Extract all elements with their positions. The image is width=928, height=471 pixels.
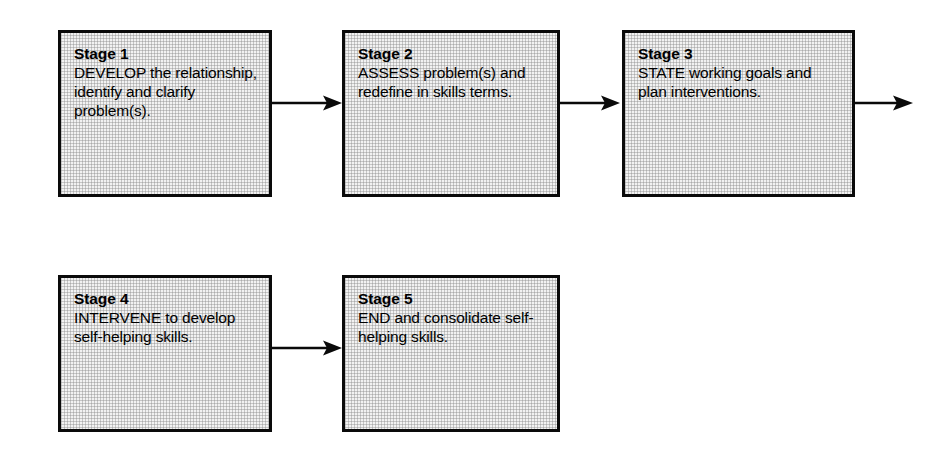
flowchart-node-stage-2[interactable]: Stage 2 ASSESS problem(s) and redefine i… xyxy=(342,30,560,197)
node-title-stage-5: Stage 5 xyxy=(358,289,557,308)
node-content-stage-4: Stage 4 INTERVENE to develop self-helpin… xyxy=(61,278,269,346)
node-title-stage-3: Stage 3 xyxy=(638,44,852,63)
flowchart-node-stage-3[interactable]: Stage 3 STATE working goals and plan int… xyxy=(622,30,855,197)
flowchart-arrow-stage-4-to-stage-5 xyxy=(272,339,344,357)
node-content-stage-2: Stage 2 ASSESS problem(s) and redefine i… xyxy=(345,33,557,101)
flowchart-arrow-stage-2-to-stage-3 xyxy=(560,94,622,112)
flowchart-node-stage-4[interactable]: Stage 4 INTERVENE to develop self-helpin… xyxy=(58,275,272,432)
node-body-stage-4: INTERVENE to develop self-helping skills… xyxy=(74,308,269,346)
node-body-stage-3: STATE working goals and plan interventio… xyxy=(638,63,852,101)
node-title-stage-1: Stage 1 xyxy=(74,44,269,63)
node-body-stage-2: ASSESS problem(s) and redefine in skills… xyxy=(358,63,557,101)
node-title-stage-2: Stage 2 xyxy=(358,44,557,63)
node-content-stage-5: Stage 5 END and consolidate self-helping… xyxy=(345,278,557,346)
node-content-stage-3: Stage 3 STATE working goals and plan int… xyxy=(625,33,852,101)
flowchart-arrow-stage-3-to-stage-4 xyxy=(855,94,917,112)
flowchart-canvas: Stage 1 DEVELOP the relationship, identi… xyxy=(0,0,928,471)
node-title-stage-4: Stage 4 xyxy=(74,289,269,308)
node-content-stage-1: Stage 1 DEVELOP the relationship, identi… xyxy=(61,33,269,120)
node-body-stage-1: DEVELOP the relationship, identify and c… xyxy=(74,63,269,120)
flowchart-node-stage-5[interactable]: Stage 5 END and consolidate self-helping… xyxy=(342,275,560,432)
node-body-stage-5: END and consolidate self-helping skills. xyxy=(358,308,557,346)
flowchart-node-stage-1[interactable]: Stage 1 DEVELOP the relationship, identi… xyxy=(58,30,272,197)
flowchart-arrow-stage-1-to-stage-2 xyxy=(272,94,344,112)
